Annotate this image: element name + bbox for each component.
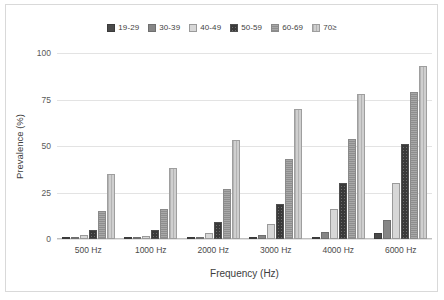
bar[interactable]	[401, 144, 409, 239]
bar[interactable]	[214, 222, 222, 239]
y-axis-title: Prevalence (%)	[12, 53, 26, 239]
x-axis-tick-label: 6000 Hz	[370, 245, 433, 255]
bar[interactable]	[196, 237, 204, 239]
bar-group	[57, 53, 120, 239]
bar-group	[182, 53, 245, 239]
bar[interactable]	[383, 220, 391, 239]
y-axis-tick-label: 75	[42, 95, 51, 105]
bar-group	[307, 53, 370, 239]
y-axis-tick-label: 0	[46, 234, 51, 244]
x-axis-tick-label: 1000 Hz	[120, 245, 183, 255]
bar[interactable]	[321, 232, 329, 239]
chart-figure: 19-2930-3940-4950-5960-6970≥ Prevalence …	[0, 0, 444, 300]
bar[interactable]	[276, 204, 284, 239]
bar-groups	[57, 53, 432, 239]
bar[interactable]	[312, 237, 320, 239]
bar[interactable]	[339, 183, 347, 239]
bar[interactable]	[249, 237, 257, 239]
bar[interactable]	[80, 235, 88, 239]
bar[interactable]	[419, 66, 427, 239]
bar[interactable]	[223, 189, 231, 239]
bar[interactable]	[392, 183, 400, 239]
bar[interactable]	[98, 211, 106, 239]
bar[interactable]	[232, 140, 240, 239]
bar[interactable]	[205, 233, 213, 239]
bar[interactable]	[348, 139, 356, 239]
bar[interactable]	[124, 237, 132, 239]
bar[interactable]	[133, 237, 141, 239]
bar[interactable]	[285, 159, 293, 239]
bar-group	[245, 53, 308, 239]
bar[interactable]	[160, 209, 168, 239]
gridline	[57, 239, 432, 240]
x-axis-tick-label: 3000 Hz	[245, 245, 308, 255]
bar[interactable]	[62, 237, 70, 239]
bar-group	[370, 53, 433, 239]
bar[interactable]	[258, 235, 266, 239]
y-axis-tick-label: 50	[42, 141, 51, 151]
bar[interactable]	[374, 233, 382, 239]
bar[interactable]	[330, 209, 338, 239]
plot-area: 0255075100	[57, 53, 432, 239]
x-axis-tick-labels: 500 Hz1000 Hz2000 Hz3000 Hz4000 Hz6000 H…	[57, 245, 432, 255]
x-axis-tick-label: 500 Hz	[57, 245, 120, 255]
y-axis-tick-label: 100	[37, 48, 51, 58]
bar[interactable]	[151, 230, 159, 239]
x-axis-tick-label: 2000 Hz	[182, 245, 245, 255]
bar[interactable]	[169, 168, 177, 239]
bar-group	[120, 53, 183, 239]
bar[interactable]	[294, 109, 302, 239]
bar[interactable]	[267, 224, 275, 239]
bar[interactable]	[187, 237, 195, 239]
bar[interactable]	[71, 237, 79, 239]
y-axis-tick-label: 25	[42, 188, 51, 198]
bar[interactable]	[142, 236, 150, 239]
x-axis-tick-label: 4000 Hz	[307, 245, 370, 255]
y-axis-title-label: Prevalence (%)	[14, 114, 25, 179]
x-axis-title: Frequency (Hz)	[57, 268, 432, 279]
bar[interactable]	[357, 94, 365, 239]
bar[interactable]	[89, 230, 97, 239]
bar[interactable]	[107, 174, 115, 239]
bar[interactable]	[410, 92, 418, 239]
